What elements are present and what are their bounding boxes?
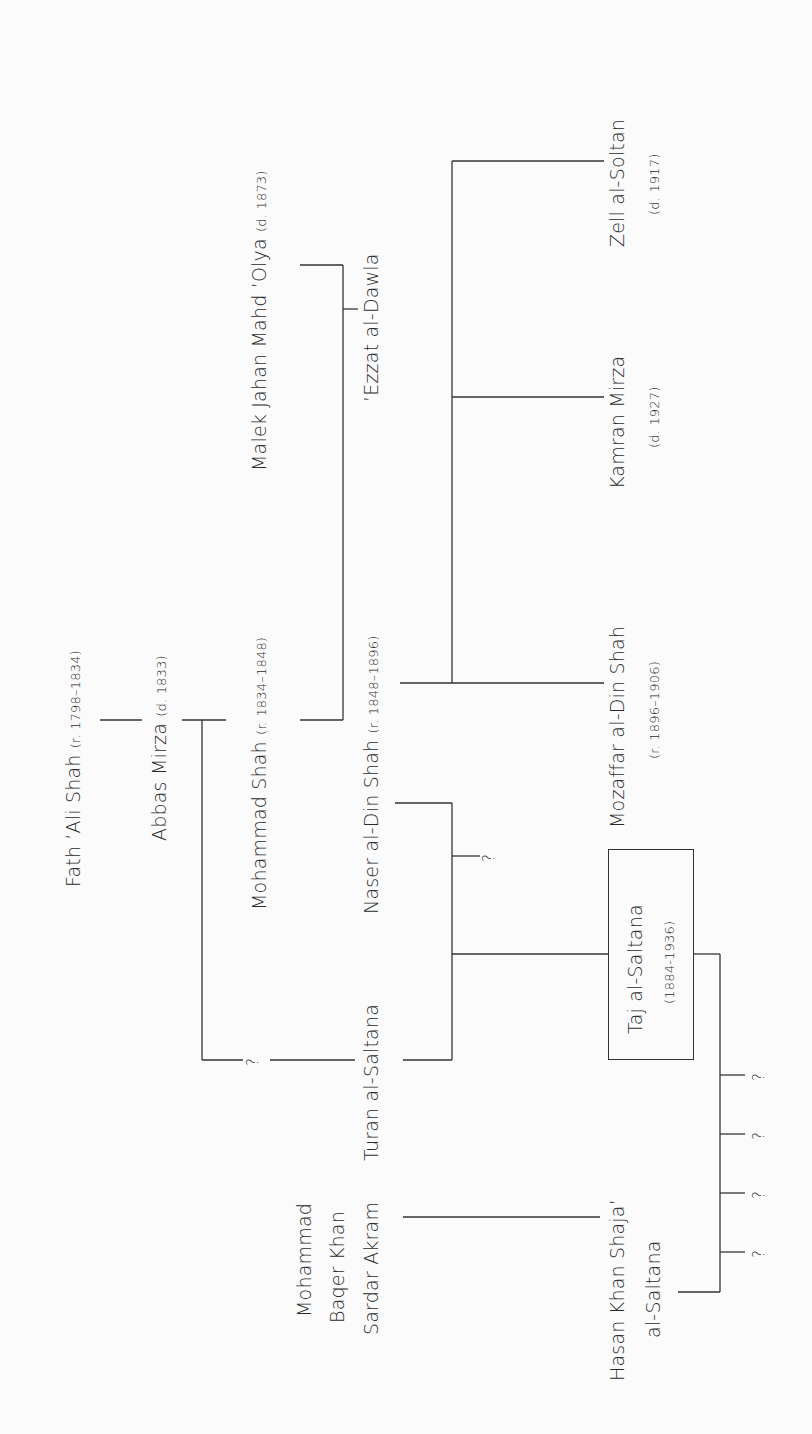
person-mohammad-baqer-line3: Sardar Akram (362, 1202, 381, 1335)
person-taj-al-saltana: Taj al-Saltana (626, 904, 645, 1034)
person-fath-ali-shah: Fath ’Ali Shah (r. 1798–1834) (64, 650, 83, 887)
kamran-dates: (d. 1927) (648, 386, 661, 448)
person-hasan-khan-line1: Hasan Khan Shaja’ (608, 1199, 627, 1381)
connector-lines (0, 0, 812, 1434)
person-hasan-khan-line2: al-Saltana (644, 1240, 663, 1338)
unknown-mark: ? (482, 854, 497, 862)
person-zell-al-soltan: Zell al-Soltan (608, 119, 627, 247)
unknown-mark: ? (246, 1058, 261, 1066)
person-naser-al-din-shah: Naser al-Din Shah (r. 1848–1896) (362, 635, 381, 914)
person-mozaffar-al-din-shah: Mozaffar al-Din Shah (608, 626, 627, 828)
mozaffar-dates: (r. 1896–1906) (648, 661, 661, 759)
zell-dates: (d. 1917) (648, 153, 661, 215)
unknown-mark: ? (752, 1250, 767, 1258)
person-mohammad-baqer-line1: Mohammad (295, 1203, 314, 1317)
taj-dates: (1884-1936) (663, 921, 676, 1004)
person-mohammad-shah: Mohammad Shah (r. 1834–1848) (250, 637, 269, 910)
person-ezzat-al-dawla: ’Ezzat al-Dawla (362, 253, 381, 402)
unknown-mark: ? (752, 1073, 767, 1081)
genealogy-diagram: Fath ’Ali Shah (r. 1798–1834) Abbas Mirz… (0, 0, 812, 1434)
unknown-mark: ? (752, 1191, 767, 1199)
unknown-mark: ? (752, 1132, 767, 1140)
person-mohammad-baqer-line2: Baqer Khan (328, 1211, 347, 1323)
person-kamran-mirza: Kamran Mirza (608, 356, 627, 489)
person-abbas-mirza: Abbas Mirza (d. 1833) (150, 655, 169, 841)
highlight-box-taj (608, 849, 694, 1060)
person-turan-al-saltana: Turan al-Saltana (362, 1004, 381, 1161)
person-malek-jahan: Malek Jahan Mahd ’Olya (d. 1873) (250, 170, 269, 471)
